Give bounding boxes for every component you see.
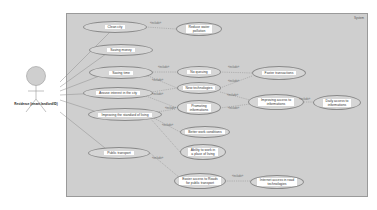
- use-case-public-transport[interactable]: Public transport: [88, 147, 150, 159]
- use-case-ability-to-work[interactable]: Ability to work in a place of living: [180, 144, 226, 160]
- include-label: «include»: [152, 93, 163, 96]
- use-case-daily-access[interactable]: Daily access to informations: [313, 95, 361, 110]
- use-case-internet-access[interactable]: Internet access in road technologies: [250, 175, 304, 189]
- use-case-faster-transactions[interactable]: Faster transactions: [252, 66, 306, 80]
- use-case-better-work[interactable]: Better work conditions: [180, 126, 230, 138]
- include-label: «include»: [152, 79, 163, 82]
- use-case-saving-time[interactable]: Saving time: [89, 66, 153, 79]
- include-label: «include»: [158, 66, 169, 69]
- use-case-no-queuing[interactable]: No queuing: [177, 66, 221, 78]
- use-case-improving-access[interactable]: Improving access to informations: [248, 94, 304, 110]
- include-label: «include»: [152, 157, 163, 160]
- use-case-improving-standard[interactable]: Improving the standard of living: [88, 108, 162, 121]
- include-label: «include»: [299, 98, 310, 101]
- include-label: «include»: [228, 80, 239, 83]
- include-label: «include»: [165, 107, 176, 110]
- use-case-clean-city[interactable]: Clean city: [83, 21, 147, 33]
- include-label: «include»: [228, 66, 239, 69]
- include-label: «include»: [162, 124, 173, 127]
- use-case-promoting-information[interactable]: Promoting informations: [177, 100, 221, 115]
- include-label: «include»: [227, 94, 238, 97]
- use-case-diagram: System Cle: [0, 0, 377, 210]
- actor-name: Residence (tenant landlord/ID): [4, 102, 68, 106]
- include-label: «include»: [232, 175, 243, 178]
- include-label: «include»: [228, 107, 239, 110]
- use-case-easier-access-public[interactable]: Easier access to Roads for public transp…: [174, 173, 226, 189]
- use-case-reduce-pollution[interactable]: Reduce water pollution: [176, 22, 222, 36]
- include-label: «include»: [150, 22, 161, 25]
- use-case-arouse-interest[interactable]: Arouse interest in the city: [83, 87, 153, 99]
- use-case-new-technologies[interactable]: New technologies: [177, 82, 221, 94]
- use-case-saving-money[interactable]: Saving money: [89, 44, 153, 56]
